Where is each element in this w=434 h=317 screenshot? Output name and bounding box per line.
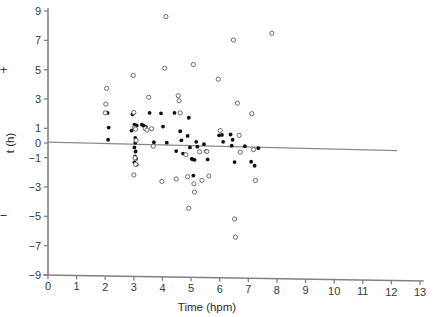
data-point-open [238,150,242,154]
plot-canvas: 975310−1−3−5−7−9012345678910111213 +− Ti… [0,0,434,317]
data-point-filled [193,158,197,162]
data-point-open [149,127,153,131]
x-tick-label: 3 [131,281,137,293]
y-tick-label: 7 [35,34,41,46]
y-tick-label: −5 [28,210,41,222]
data-point-filled [221,140,225,144]
data-point-filled [174,149,178,153]
data-point-filled [233,160,237,164]
y-tick-label: 1 [35,122,41,134]
y-tick-label: −3 [28,181,41,193]
data-point-open [250,112,254,116]
data-point-open [145,128,149,132]
data-point-filled [256,146,260,150]
plus-sign: + [0,62,7,77]
data-point-open [163,66,167,70]
data-point-filled [194,140,198,144]
data-point-filled [206,158,210,162]
x-tick-label: 13 [414,286,426,298]
data-point-open [231,38,235,42]
x-tick-label: 1 [74,280,80,292]
data-point-open [198,150,202,154]
data-point-open [164,14,168,18]
y-tick-label: 0 [35,137,41,149]
x-axis-title: Time (hpm) [178,301,237,313]
data-point-open [103,111,107,115]
data-point-open [232,217,236,221]
data-point-open [132,110,136,114]
data-point-open [132,173,136,177]
x-tick-label: 12 [385,286,397,298]
x-tick-label: 4 [159,282,165,294]
data-point-filled [187,116,191,120]
x-tick-label: 7 [245,283,251,295]
data-point-open [192,182,196,186]
data-point-open [207,174,211,178]
y-tick-label: 3 [35,93,41,105]
data-point-filled [249,160,253,164]
data-point-filled [231,138,235,142]
data-point-filled [188,146,192,150]
minus-sign: − [0,208,7,223]
data-point-open [174,177,178,181]
data-point-open [133,127,137,131]
x-tick-label: 11 [357,285,368,297]
data-point-open [131,73,135,77]
x-tick-label: 5 [188,282,194,294]
data-points-group [103,14,274,239]
scatter-plot-figure: 975310−1−3−5−7−9012345678910111213 +− Ti… [0,0,434,317]
data-point-open [237,133,241,137]
data-point-open [205,149,209,153]
y-tick-label: −1 [28,152,41,164]
y-tick-label: 9 [35,5,41,17]
data-point-open [216,77,220,81]
x-tick-label: 0 [45,280,51,292]
data-point-open [177,99,181,103]
data-point-open [176,94,180,98]
data-point-open [218,128,222,132]
data-point-open [160,179,164,183]
data-point-filled [186,134,190,138]
data-point-filled [134,150,138,154]
y-tick-label: −7 [28,240,41,252]
data-point-filled [191,174,195,178]
data-point-open [104,102,108,106]
data-point-open [186,175,190,179]
data-point-open [192,190,196,194]
data-point-open [184,153,188,157]
data-point-open [191,62,195,66]
data-point-open [233,235,237,239]
data-point-open [200,178,204,182]
x-tick-label: 10 [328,285,340,297]
data-point-open [253,178,257,182]
y-tick-label: 5 [35,64,41,76]
data-point-filled [230,144,234,148]
data-point-open [147,95,151,99]
data-point-filled [220,133,224,137]
data-point-filled [173,111,177,115]
axes-group: 975310−1−3−5−7−9012345678910111213 [28,5,426,298]
data-point-filled [178,129,182,133]
data-point-open [133,162,137,166]
data-point-filled [159,111,163,115]
data-point-filled [253,164,257,168]
y-axis-title: t (h) [4,133,16,154]
data-point-open [235,101,239,105]
x-tick-label: 8 [274,284,280,296]
y-tick-label: −9 [28,269,41,281]
data-point-filled [202,142,206,146]
data-point-open [251,148,255,152]
data-point-filled [161,125,165,129]
data-point-open [133,156,137,160]
x-tick-label: 9 [302,284,308,296]
data-point-filled [229,133,233,137]
x-axis-line [44,275,423,281]
data-point-filled [179,138,183,142]
data-point-open [187,206,191,210]
data-point-filled [133,146,137,150]
data-point-open [134,138,138,142]
data-point-filled [148,111,152,115]
data-point-filled [243,144,247,148]
data-point-filled [165,141,169,145]
data-point-open [178,111,182,115]
